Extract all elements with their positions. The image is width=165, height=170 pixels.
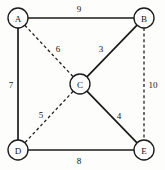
edge-weight-a-d: 7 [9, 80, 14, 90]
graph-diagram: 976310548 ABCDE [0, 0, 165, 170]
node-d[interactable]: D [8, 140, 28, 160]
edge-weight-b-c: 3 [99, 44, 104, 54]
edge-weight-c-e: 4 [117, 111, 122, 121]
edge-c-d [25, 91, 73, 142]
node-label-a: A [15, 14, 22, 24]
edge-c-e [87, 91, 137, 143]
node-a[interactable]: A [8, 8, 28, 28]
edge-a-c [25, 25, 73, 76]
edge-weight-a-c: 6 [56, 44, 61, 54]
node-e[interactable]: E [134, 140, 154, 160]
node-label-b: B [141, 14, 147, 24]
edge-b-c [87, 25, 137, 77]
edge-weight-a-b: 9 [77, 4, 82, 14]
node-c[interactable]: C [70, 74, 90, 94]
node-label-d: D [15, 146, 22, 156]
node-b[interactable]: B [134, 8, 154, 28]
edge-weight-d-e: 8 [77, 156, 82, 166]
node-label-c: C [77, 80, 83, 90]
graph-canvas: 976310548 ABCDE [0, 0, 165, 170]
edge-weight-b-e: 10 [149, 80, 159, 90]
node-label-e: E [141, 146, 147, 156]
edge-weight-c-d: 5 [39, 110, 44, 120]
